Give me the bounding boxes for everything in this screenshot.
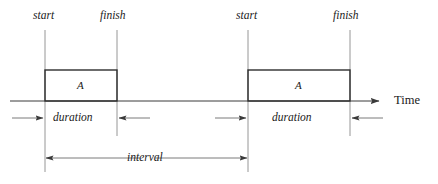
event-2-duration-label: duration [272, 112, 312, 124]
event-2-box-label: A [295, 80, 302, 91]
event-1-box-label: A [77, 80, 84, 91]
event-1-finish-label: finish [100, 10, 126, 22]
event-2-start-label: start [236, 10, 257, 22]
event-2-finish-label: finish [333, 10, 359, 22]
interval-label: interval [127, 152, 163, 164]
event-1-duration-label: duration [53, 112, 93, 124]
event-1-start-label: start [33, 10, 54, 22]
diagram-canvas [0, 0, 438, 184]
time-axis-label: Time [394, 94, 420, 107]
timing-diagram: start finish A duration start finish A d… [0, 0, 438, 184]
